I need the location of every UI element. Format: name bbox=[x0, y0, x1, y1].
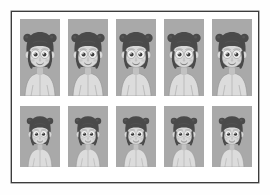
neck-shape bbox=[230, 144, 235, 150]
torso-group bbox=[121, 73, 151, 96]
pupil-right bbox=[42, 133, 45, 136]
character-figure bbox=[116, 19, 156, 96]
torso-group bbox=[124, 149, 148, 167]
hair-bun-left-highlight bbox=[220, 119, 222, 121]
eye-glint-right bbox=[186, 133, 187, 134]
eye-glint-right bbox=[138, 133, 139, 134]
character-figure bbox=[68, 106, 108, 167]
cheek-left bbox=[31, 59, 35, 61]
eye-glint-left bbox=[178, 53, 179, 54]
portrait-cell[interactable] bbox=[20, 19, 60, 96]
torso-group bbox=[172, 149, 196, 167]
pupil-right bbox=[90, 133, 93, 136]
cheek-left bbox=[175, 59, 179, 61]
portrait-cell[interactable] bbox=[212, 19, 252, 96]
cheek-right bbox=[44, 138, 47, 140]
cheek-right bbox=[141, 59, 145, 61]
cheek-left bbox=[177, 138, 180, 140]
portrait-cell[interactable] bbox=[212, 106, 252, 167]
eye-glint-right bbox=[91, 53, 92, 54]
cheek-left bbox=[223, 59, 227, 61]
cheek-right bbox=[140, 138, 143, 140]
pupil-left bbox=[179, 133, 182, 136]
neck-shape bbox=[38, 144, 43, 150]
character-svg bbox=[20, 19, 60, 96]
eye-glint-left bbox=[227, 133, 228, 134]
portrait-cell[interactable] bbox=[164, 19, 204, 96]
cheek-left bbox=[127, 59, 131, 61]
character-svg bbox=[68, 106, 108, 167]
hair-bun-right-highlight bbox=[242, 36, 245, 39]
hair-bun-right-highlight bbox=[146, 36, 149, 39]
eye-glint-right bbox=[234, 133, 235, 134]
torso-group bbox=[217, 73, 247, 96]
neck-shape bbox=[182, 144, 187, 150]
pupil-left bbox=[227, 133, 230, 136]
hair-bun-left-highlight bbox=[217, 36, 220, 39]
screenshot-canvas bbox=[0, 0, 270, 195]
portrait-cell[interactable] bbox=[116, 19, 156, 96]
portrait-cell[interactable] bbox=[20, 106, 60, 167]
character-figure bbox=[164, 19, 204, 96]
hair-bun-right-highlight bbox=[194, 36, 197, 39]
portrait-cell[interactable] bbox=[68, 19, 108, 96]
neck-shape bbox=[229, 67, 235, 75]
pupil-right bbox=[234, 53, 238, 57]
neck-shape bbox=[37, 67, 43, 75]
character-figure bbox=[116, 106, 156, 167]
character-figure bbox=[212, 106, 252, 167]
neck-shape bbox=[86, 144, 91, 150]
eye-glint-left bbox=[179, 133, 180, 134]
hair-bun-right-highlight bbox=[240, 119, 242, 121]
portrait-cell[interactable] bbox=[164, 106, 204, 167]
character-svg bbox=[212, 19, 252, 96]
pupil-left bbox=[226, 53, 230, 57]
character-svg bbox=[68, 19, 108, 96]
neck-shape bbox=[181, 67, 187, 75]
character-svg bbox=[164, 106, 204, 167]
eye-glint-right bbox=[139, 53, 140, 54]
eye-glint-left bbox=[226, 53, 227, 54]
eye-glint-left bbox=[83, 133, 84, 134]
cheek-left bbox=[225, 138, 228, 140]
eye-glint-right bbox=[90, 133, 91, 134]
eye-glint-left bbox=[35, 133, 36, 134]
pupil-left bbox=[82, 53, 86, 57]
hair-bun-right-highlight bbox=[144, 119, 146, 121]
eye-glint-left bbox=[130, 53, 131, 54]
character-figure bbox=[20, 106, 60, 167]
pupil-left bbox=[35, 133, 38, 136]
character-svg bbox=[116, 106, 156, 167]
neck-shape bbox=[134, 144, 139, 150]
cheek-right bbox=[236, 138, 239, 140]
pupil-right bbox=[90, 53, 94, 57]
pupil-right bbox=[138, 53, 142, 57]
portrait-cell[interactable] bbox=[68, 106, 108, 167]
portrait-cell[interactable] bbox=[116, 106, 156, 167]
eye-glint-left bbox=[34, 53, 35, 54]
neck-shape bbox=[133, 67, 139, 75]
torso-group bbox=[220, 149, 244, 167]
character-svg bbox=[212, 106, 252, 167]
cheek-left bbox=[79, 59, 83, 61]
hair-bun-right-highlight bbox=[48, 119, 50, 121]
pupil-left bbox=[178, 53, 182, 57]
eye-glint-left bbox=[82, 53, 83, 54]
cheek-right bbox=[92, 138, 95, 140]
page-frame bbox=[11, 11, 259, 183]
torso-group bbox=[28, 149, 52, 167]
neck-shape bbox=[85, 67, 91, 75]
eye-glint-right bbox=[43, 53, 44, 54]
hair-bun-right-highlight bbox=[98, 36, 101, 39]
torso-group bbox=[169, 73, 199, 96]
eye-glint-right bbox=[187, 53, 188, 54]
pupil-right bbox=[234, 133, 237, 136]
character-svg bbox=[20, 106, 60, 167]
eye-glint-right bbox=[235, 53, 236, 54]
pupil-right bbox=[186, 53, 190, 57]
torso-group bbox=[76, 149, 100, 167]
pupil-right bbox=[138, 133, 141, 136]
pupil-left bbox=[131, 133, 134, 136]
hair-bun-left-highlight bbox=[25, 36, 28, 39]
hair-bun-left-highlight bbox=[172, 119, 174, 121]
